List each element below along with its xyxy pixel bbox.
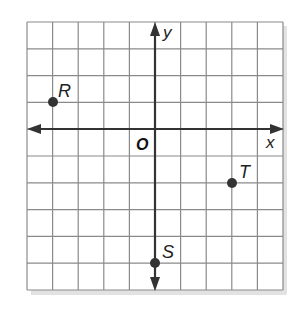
point-r-label: R (58, 81, 71, 101)
point-t-label: T (239, 162, 252, 182)
y-axis-down-arrow-icon (150, 277, 160, 291)
point-t (227, 178, 237, 188)
y-axis-label: y (162, 23, 173, 42)
y-axis-up-arrow-icon (150, 22, 160, 36)
x-axis-label: x (265, 133, 275, 152)
origin-label: O (136, 136, 149, 153)
grid-shadow-bottom (31, 290, 286, 295)
coordinate-plane: y x O R T S (0, 0, 298, 310)
point-s (150, 258, 160, 268)
x-axis-left-arrow-icon (27, 124, 41, 134)
point-s-label: S (162, 242, 174, 262)
point-r (48, 97, 58, 107)
